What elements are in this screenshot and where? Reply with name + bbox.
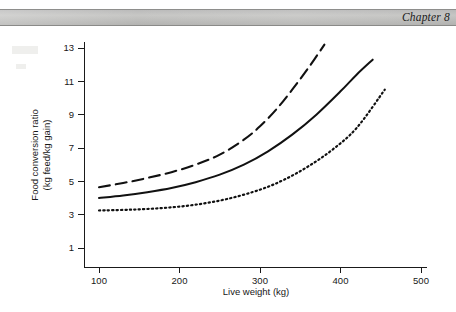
- chart-figure: 135791113 100200300400500 Live weight (k…: [0, 0, 456, 312]
- x-tick-label: 300: [252, 275, 268, 286]
- y-tick-label: 1: [69, 242, 74, 253]
- x-tick-label: 200: [172, 275, 188, 286]
- x-tick-label: 400: [333, 275, 349, 286]
- x-tick-label: 500: [413, 275, 429, 286]
- x-axis-title: Live weight (kg): [223, 286, 290, 297]
- y-axis-ticks: 135791113: [63, 42, 84, 253]
- y-tick-label: 3: [69, 209, 74, 220]
- y-tick-label: 9: [69, 109, 74, 120]
- y-tick-label: 7: [69, 142, 74, 153]
- x-tick-label: 100: [91, 275, 107, 286]
- y-tick-label: 11: [64, 76, 74, 87]
- page-root: Chapter 8 135791113 100200300400500 Live…: [0, 0, 456, 312]
- series-line-middle-curve: [99, 60, 373, 198]
- series-line-upper-curve: [99, 45, 324, 188]
- y-axis-title-line1: Food conversion ratio: [29, 109, 40, 200]
- chart-series-group: [99, 45, 385, 211]
- chart-axes: [84, 42, 427, 267]
- y-axis-title-line2: (kg feed/kg gain): [41, 120, 52, 191]
- x-axis-ticks: 100200300400500: [91, 267, 429, 286]
- y-tick-label: 5: [69, 176, 74, 187]
- y-tick-label: 13: [63, 42, 74, 53]
- chapter-label: Chapter 8: [402, 11, 450, 23]
